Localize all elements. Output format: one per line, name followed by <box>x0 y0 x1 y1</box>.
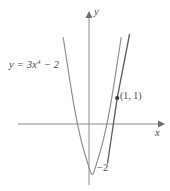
equation-suffix: − 2 <box>41 59 59 70</box>
y-axis-label: y <box>94 7 99 18</box>
quartic-curve <box>63 38 121 175</box>
equation-prefix: y = 3x <box>9 59 37 70</box>
y-intercept-label: −2 <box>97 163 108 174</box>
graph-canvas <box>0 0 170 191</box>
graph-figure: y = 3x4 − 2 y x (1, 1) −2 <box>0 0 170 191</box>
point-marker-1-1 <box>115 96 119 100</box>
y-axis-arrowhead <box>86 11 93 18</box>
point-coordinate-label: (1, 1) <box>120 91 142 101</box>
curve-equation-label: y = 3x4 − 2 <box>9 60 59 71</box>
x-axis-label: x <box>155 128 160 139</box>
